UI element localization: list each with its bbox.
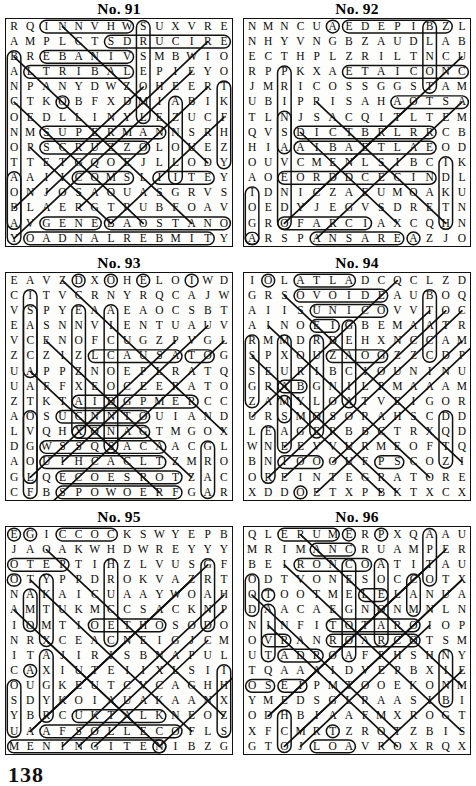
grid-cell: O (167, 273, 183, 288)
grid-cell: C (325, 125, 341, 140)
grid-cell: B (71, 95, 87, 110)
grid-cell: O (184, 618, 200, 633)
grid-cell: S (38, 409, 54, 424)
puzzle-grid-91[interactable]: RQINNVHWSUXVREAMPLCTSDRUCIREBREBANIVSMBW… (5, 18, 233, 247)
grid-cell: O (244, 470, 260, 485)
grid-cell: M (184, 455, 200, 470)
puzzle-grid-95[interactable]: EGICCOCKSWYEPBJAOAKWHDWREYYYOTEPTIHZLVUS… (5, 526, 233, 755)
grid-cell: N (244, 19, 260, 34)
grid-cell: R (405, 709, 421, 724)
grid-cell: U (200, 318, 216, 333)
grid-cell: M (309, 155, 325, 170)
grid-cell: T (119, 409, 135, 424)
grid-cell: T (260, 588, 276, 603)
grid-cell: K (87, 709, 103, 724)
grid-cell: C (373, 273, 389, 288)
grid-cell: V (292, 34, 308, 49)
grid-cell: R (135, 470, 151, 485)
grid-cell: K (38, 95, 54, 110)
grid-cell: E (373, 288, 389, 303)
grid-cell: F (292, 618, 308, 633)
grid-cell: F (184, 724, 200, 739)
grid-cell: T (103, 678, 119, 693)
grid-cell: Z (438, 273, 454, 288)
grid-cell: S (405, 693, 421, 708)
grid-cell: E (260, 364, 276, 379)
grid-cell: C (135, 439, 151, 454)
grid-cell: I (38, 527, 54, 542)
grid-cell: O (292, 318, 308, 333)
grid-cell: H (357, 334, 373, 349)
grid-cell: E (341, 470, 357, 485)
grid-cell: E (341, 527, 357, 542)
grid-cell: B (422, 724, 438, 739)
grid-cell: E (389, 231, 405, 246)
grid-cell: O (244, 678, 260, 693)
grid-cell: F (22, 485, 38, 500)
grid-cell: O (216, 216, 232, 231)
grid-cell: T (87, 663, 103, 678)
grid-cell: I (103, 648, 119, 663)
grid-cell: A (276, 603, 292, 618)
grid-cell: T (438, 439, 454, 454)
grid-cell: I (244, 273, 260, 288)
grid-cell: M (260, 19, 276, 34)
puzzle-grid-94[interactable]: IOLATLADCQCLZDGRSOVOIDEAUBOQAIISUNICOVVT… (243, 272, 471, 501)
grid-cell: C (119, 678, 135, 693)
grid-cell: G (22, 527, 38, 542)
grid-cell: Z (6, 394, 22, 409)
grid-cell: U (260, 155, 276, 170)
grid-cell: B (200, 303, 216, 318)
grid-cell: N (454, 216, 470, 231)
grid-cell: B (87, 64, 103, 79)
grid-cell: L (167, 663, 183, 678)
grid-cell: T (38, 288, 54, 303)
grid-cell: P (71, 485, 87, 500)
grid-cell: V (184, 334, 200, 349)
grid-cell: A (38, 80, 54, 95)
grid-cell: I (184, 231, 200, 246)
grid-cell: L (422, 273, 438, 288)
grid-cell: E (119, 364, 135, 379)
grid-cell: A (438, 379, 454, 394)
grid-cell: C (309, 80, 325, 95)
grid-cell: G (325, 34, 341, 49)
grid-cell: I (341, 303, 357, 318)
grid-cell: C (260, 49, 276, 64)
grid-cell: N (389, 334, 405, 349)
grid-cell: O (135, 140, 151, 155)
grid-cell: Z (167, 110, 183, 125)
grid-cell: N (357, 603, 373, 618)
grid-cell: N (135, 318, 151, 333)
grid-cell: L (276, 273, 292, 288)
grid-cell: C (405, 64, 421, 79)
grid-cell: N (422, 170, 438, 185)
letter-grid: QLERUMERPXQAAUMRIMANCRUAMPERBEIRONCOATIT… (244, 527, 470, 754)
grid-cell: L (260, 527, 276, 542)
grid-cell: U (22, 678, 38, 693)
grid-cell: O (389, 739, 405, 754)
grid-cell: R (309, 170, 325, 185)
grid-cell: N (103, 409, 119, 424)
grid-cell: E (341, 334, 357, 349)
grid-cell: R (276, 80, 292, 95)
puzzle-grid-96[interactable]: QLERUMERPXQAAUMRIMANCRUAMPERBEIRONCOATIT… (243, 526, 471, 755)
grid-cell: N (200, 216, 216, 231)
grid-cell: A (184, 693, 200, 708)
grid-cell: Y (216, 155, 232, 170)
grid-cell: N (38, 739, 54, 754)
puzzle-grid-92[interactable]: NMNCUAEDEPIBZLNHYVNGBZAUDLABECTHPLZRILTN… (243, 18, 471, 247)
grid-cell: C (103, 527, 119, 542)
grid-cell: B (6, 201, 22, 216)
grid-cell: I (309, 709, 325, 724)
grid-cell: G (6, 470, 22, 485)
grid-cell: O (6, 185, 22, 200)
grid-cell: I (276, 95, 292, 110)
puzzle-grid-93[interactable]: EAVZDXOHELOIWDCITVCRNYRQCAJWVSPYEAAEAOCS… (5, 272, 233, 501)
grid-cell: C (184, 439, 200, 454)
grid-cell: I (167, 170, 183, 185)
grid-cell: P (22, 140, 38, 155)
grid-cell: T (184, 349, 200, 364)
grid-cell: S (260, 678, 276, 693)
grid-cell: A (454, 95, 470, 110)
